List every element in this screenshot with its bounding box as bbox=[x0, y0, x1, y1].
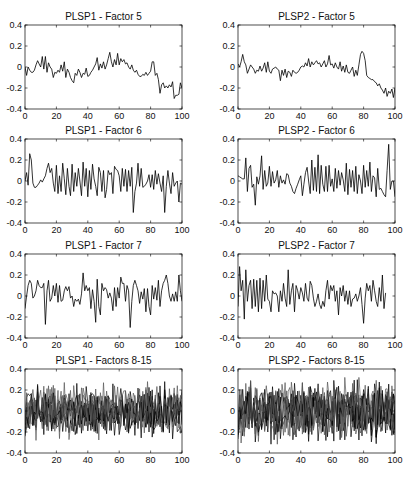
subplot-title: PLSP1 - Factor 5 bbox=[65, 11, 142, 22]
subplot-4: PLSP2 - Factor 60204060801000.40.20-0.2-… bbox=[219, 125, 402, 235]
y-tick-label: 0.4 bbox=[9, 249, 22, 259]
x-tick-label: 40 bbox=[83, 455, 93, 465]
x-tick-label: 20 bbox=[264, 340, 274, 350]
plot-lines bbox=[238, 377, 395, 444]
x-tick-label: 100 bbox=[387, 340, 402, 350]
axes-box bbox=[238, 139, 395, 223]
x-tick-label: 40 bbox=[83, 225, 93, 235]
x-tick-label: 20 bbox=[51, 111, 61, 121]
axes-box bbox=[25, 139, 182, 223]
y-tick-label: 0.2 bbox=[222, 270, 235, 280]
plot-lines bbox=[25, 382, 182, 441]
axes-box bbox=[25, 254, 182, 338]
x-tick-label: 20 bbox=[264, 455, 274, 465]
subplot-1: PLSP1 - Factor 50204060801000.40.20-0.2-… bbox=[6, 11, 189, 121]
y-tick-label: 0 bbox=[230, 291, 235, 301]
x-tick-label: 0 bbox=[22, 111, 27, 121]
y-tick-label: -0.2 bbox=[6, 312, 22, 322]
x-tick-label: 40 bbox=[296, 111, 306, 121]
y-tick-label: 0.4 bbox=[222, 20, 235, 30]
x-tick-label: 80 bbox=[146, 340, 156, 350]
x-tick-label: 80 bbox=[359, 455, 369, 465]
x-tick-label: 0 bbox=[22, 225, 27, 235]
subplot-5: PLSP1 - Factor 70204060801000.40.20-0.2-… bbox=[6, 240, 189, 350]
y-tick-label: -0.4 bbox=[219, 333, 235, 343]
x-tick-label: 60 bbox=[114, 340, 124, 350]
y-tick-label: 0.2 bbox=[9, 41, 22, 51]
x-tick-label: 80 bbox=[359, 225, 369, 235]
y-tick-label: -0.4 bbox=[219, 104, 235, 114]
x-tick-label: 80 bbox=[359, 340, 369, 350]
subplot-title: PLSP2 - Factor 5 bbox=[278, 11, 355, 22]
x-tick-label: 0 bbox=[22, 455, 27, 465]
plot-lines bbox=[25, 52, 182, 98]
y-tick-label: 0.4 bbox=[9, 364, 22, 374]
plot-lines bbox=[25, 154, 182, 213]
x-tick-label: 20 bbox=[264, 225, 274, 235]
y-tick-label: 0 bbox=[17, 291, 22, 301]
plot-lines bbox=[238, 267, 386, 324]
plot-lines bbox=[238, 51, 395, 97]
y-tick-label: -0.4 bbox=[6, 104, 22, 114]
y-tick-label: 0.2 bbox=[222, 155, 235, 165]
subplot-title: PLSP1 - Factors 8-15 bbox=[55, 355, 152, 366]
y-tick-label: 0.4 bbox=[9, 20, 22, 30]
y-tick-label: 0 bbox=[230, 62, 235, 72]
y-tick-label: -0.2 bbox=[219, 312, 235, 322]
x-tick-label: 100 bbox=[174, 455, 189, 465]
subplot-title: PLSP2 - Factor 6 bbox=[278, 125, 355, 136]
subplot-title: PLSP1 - Factor 6 bbox=[65, 125, 142, 136]
x-tick-label: 20 bbox=[51, 225, 61, 235]
x-tick-label: 40 bbox=[296, 455, 306, 465]
y-tick-label: -0.2 bbox=[6, 83, 22, 93]
y-tick-label: 0 bbox=[17, 406, 22, 416]
x-tick-label: 60 bbox=[327, 340, 337, 350]
x-tick-label: 60 bbox=[327, 111, 337, 121]
subplot-title: PLSP2 - Factor 7 bbox=[278, 240, 355, 251]
plot-lines bbox=[25, 273, 182, 328]
x-tick-label: 80 bbox=[146, 111, 156, 121]
data-line bbox=[238, 51, 395, 97]
y-tick-label: 0.2 bbox=[222, 41, 235, 51]
y-tick-label: -0.2 bbox=[6, 427, 22, 437]
x-tick-label: 60 bbox=[114, 455, 124, 465]
y-tick-label: -0.2 bbox=[219, 427, 235, 437]
x-tick-label: 0 bbox=[235, 111, 240, 121]
y-tick-label: -0.2 bbox=[6, 197, 22, 207]
data-line bbox=[25, 52, 182, 98]
x-tick-label: 100 bbox=[174, 111, 189, 121]
subplot-title: PLSP1 - Factor 7 bbox=[65, 240, 142, 251]
x-tick-label: 20 bbox=[51, 455, 61, 465]
x-tick-label: 60 bbox=[327, 225, 337, 235]
y-tick-label: -0.4 bbox=[6, 333, 22, 343]
x-tick-label: 100 bbox=[387, 455, 402, 465]
x-tick-label: 60 bbox=[114, 111, 124, 121]
y-tick-label: 0.4 bbox=[222, 134, 235, 144]
y-tick-label: 0 bbox=[230, 406, 235, 416]
x-tick-label: 40 bbox=[83, 111, 93, 121]
x-tick-label: 40 bbox=[83, 340, 93, 350]
y-tick-label: 0.2 bbox=[222, 385, 235, 395]
y-tick-label: 0.2 bbox=[9, 155, 22, 165]
axes-box bbox=[25, 25, 182, 109]
x-tick-label: 0 bbox=[22, 340, 27, 350]
y-tick-label: 0 bbox=[17, 62, 22, 72]
y-tick-label: 0 bbox=[230, 176, 235, 186]
x-tick-label: 60 bbox=[114, 225, 124, 235]
subplot-2: PLSP2 - Factor 50204060801000.40.20-0.2-… bbox=[219, 11, 402, 121]
x-tick-label: 0 bbox=[235, 225, 240, 235]
x-tick-label: 80 bbox=[146, 225, 156, 235]
subplot-6: PLSP2 - Factor 70204060801000.40.20-0.2-… bbox=[219, 240, 402, 350]
y-tick-label: 0.2 bbox=[9, 270, 22, 280]
y-tick-label: 0.4 bbox=[222, 364, 235, 374]
y-tick-label: 0.4 bbox=[222, 249, 235, 259]
y-tick-label: -0.2 bbox=[219, 197, 235, 207]
x-tick-label: 80 bbox=[146, 455, 156, 465]
data-line bbox=[25, 154, 182, 213]
x-tick-label: 0 bbox=[235, 340, 240, 350]
x-tick-label: 20 bbox=[51, 340, 61, 350]
y-tick-label: -0.4 bbox=[6, 448, 22, 458]
x-tick-label: 20 bbox=[264, 111, 274, 121]
x-tick-label: 40 bbox=[296, 225, 306, 235]
x-tick-label: 0 bbox=[235, 455, 240, 465]
